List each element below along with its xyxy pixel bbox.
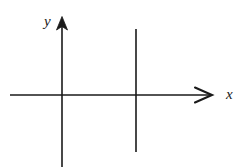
y-axis-label: y bbox=[42, 13, 51, 29]
figure-background bbox=[0, 0, 248, 167]
figure-canvas: y x bbox=[0, 0, 248, 167]
coordinate-axes-figure: y x bbox=[0, 0, 248, 167]
x-axis-label: x bbox=[225, 86, 233, 102]
